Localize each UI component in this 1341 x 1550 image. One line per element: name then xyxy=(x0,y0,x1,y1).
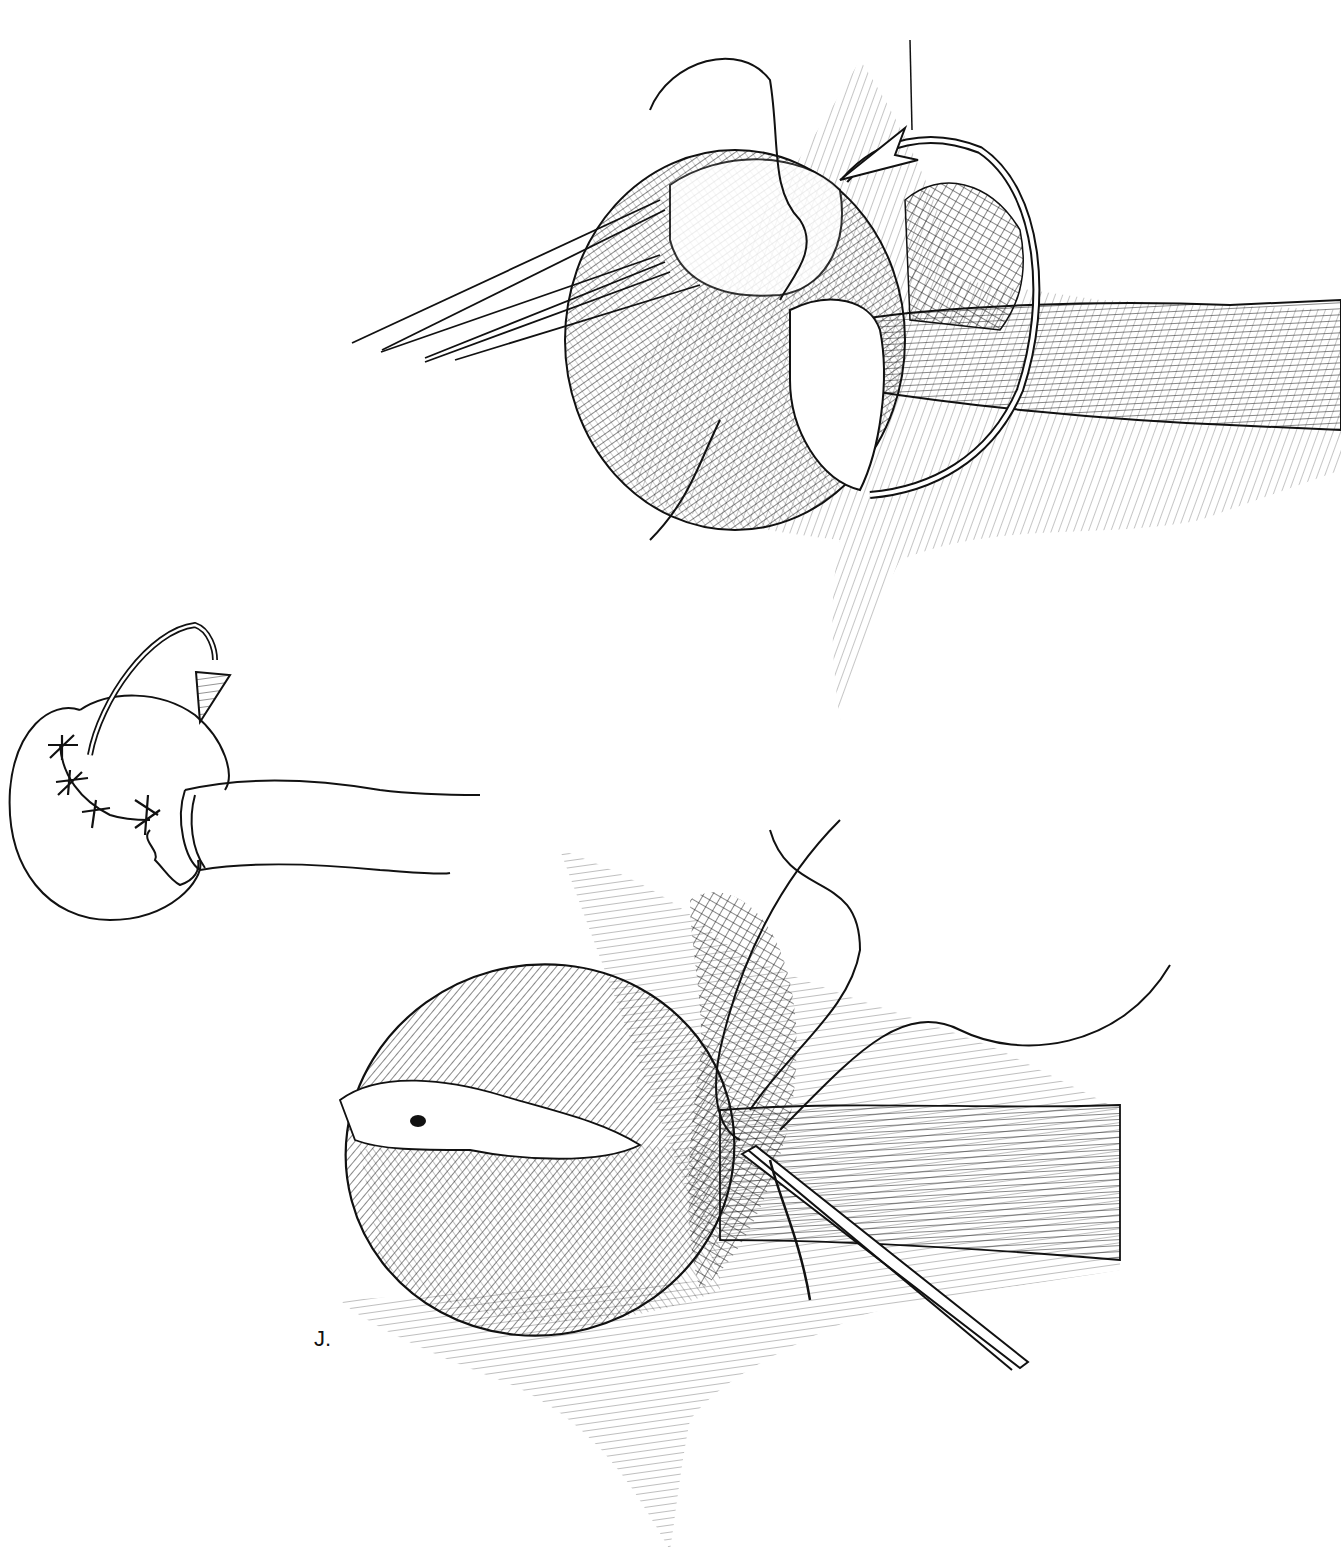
bottom-panel xyxy=(304,820,1170,1550)
inset-organ-outline xyxy=(10,708,201,920)
surgical-illustration xyxy=(0,0,1341,1550)
inset-panel xyxy=(10,625,480,920)
drape-edge xyxy=(910,40,912,130)
top-panel xyxy=(352,40,1341,720)
organ-lobe xyxy=(670,159,842,295)
panel-label: J. xyxy=(314,1326,331,1352)
rotation-arrow-inset xyxy=(90,625,215,755)
illustration-canvas xyxy=(0,0,1341,1550)
inset-tube-lower xyxy=(200,864,450,873)
arrowhead-inset xyxy=(196,672,230,722)
suture-knot xyxy=(410,1115,426,1127)
inset-tube-upper xyxy=(185,781,480,795)
